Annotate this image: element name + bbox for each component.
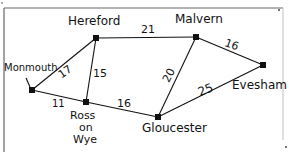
monmouth-pointer: [26, 78, 30, 87]
corner-mark: [278, 9, 280, 11]
node-malvern: [193, 34, 199, 40]
weight-hereford-ross: 15: [93, 67, 107, 80]
label-hereford: Hereford: [68, 14, 120, 28]
label-gloucester: Gloucester: [142, 121, 207, 135]
weight-monmouth-ross: 11: [52, 98, 65, 109]
label-wye: Wye: [73, 133, 97, 146]
corner-mark: [1, 2, 3, 4]
weight-hereford-malvern: 21: [141, 23, 155, 36]
weight-malvern-evesham: 16: [223, 36, 241, 53]
route-diagram: Hereford Malvern Evesham Monmouth Ross o…: [0, 0, 289, 152]
weight-hereford-monmouth: 17: [56, 62, 75, 81]
edge-hereford-malvern: [96, 37, 196, 38]
corner-mark: [285, 146, 287, 148]
weight-ross-gloucester: 16: [117, 97, 131, 110]
node-gloucester: [155, 114, 161, 120]
label-evesham: Evesham: [232, 78, 287, 92]
node-evesham: [260, 62, 266, 68]
node-ross-on-wye: [83, 99, 89, 105]
label-monmouth: Monmouth: [4, 62, 58, 73]
label-malvern: Malvern: [175, 12, 223, 26]
node-monmouth: [29, 87, 35, 93]
node-hereford: [93, 35, 99, 41]
